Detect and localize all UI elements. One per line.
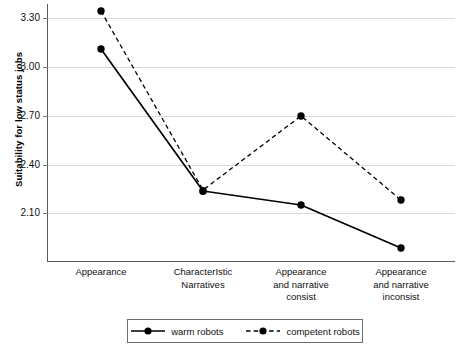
x-category-label-2-line2: Narratives (151, 279, 255, 292)
x-category-label-4-line2: and narrative (349, 279, 453, 292)
x-category-label-4: Appearance and narrative inconsist (349, 266, 453, 304)
data-point-competent-3 (297, 112, 304, 119)
legend-label-warm-robots: warm robots (171, 326, 223, 337)
data-point-competent-1 (97, 7, 104, 14)
legend-item-warm-robots: warm robots (130, 326, 223, 337)
x-category-label-3-line2: and narrative (249, 279, 353, 292)
data-point-warm-2 (199, 187, 207, 195)
x-category-label-3-line1: Appearance (249, 266, 353, 279)
chart-legend: warm robots competent robots (127, 319, 363, 343)
x-category-label-4-line3: inconsist (349, 291, 453, 304)
x-category-label-2: CharacterIstic Narratives (151, 266, 255, 291)
legend-swatch-dashed-line-icon (245, 326, 281, 336)
legend-swatch-solid-line-icon (130, 326, 166, 336)
data-point-warm-4 (397, 244, 404, 251)
x-category-label-4-line1: Appearance (349, 266, 453, 279)
x-category-label-1-line1: Appearance (49, 266, 153, 279)
data-point-warm-3 (297, 201, 304, 208)
data-point-competent-4 (397, 196, 404, 203)
legend-label-competent-robots: competent robots (286, 326, 359, 337)
x-category-label-2-line1: CharacterIstic (151, 266, 255, 279)
chart-figure: Suitability for low status jobs 3.30 3.0… (0, 0, 466, 349)
x-category-label-3: Appearance and narrative consist (249, 266, 353, 304)
legend-item-competent-robots: competent robots (245, 326, 359, 337)
x-category-label-1: Appearance (49, 266, 153, 279)
series-line-competent-robots (101, 11, 401, 200)
series-line-warm-robots (101, 49, 401, 248)
x-category-label-3-line3: consist (249, 291, 353, 304)
data-point-warm-1 (97, 45, 104, 52)
